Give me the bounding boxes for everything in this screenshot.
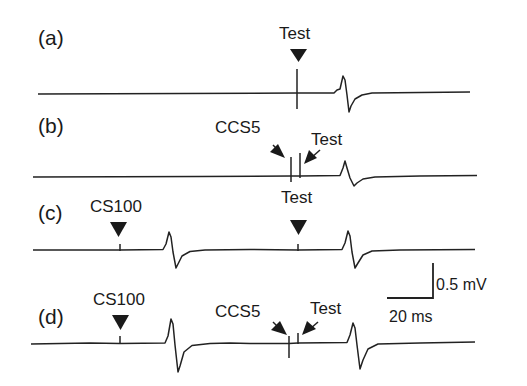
ccs5-label: CCS5 <box>215 302 260 321</box>
trace-c <box>33 231 475 268</box>
down-arrow-icon <box>112 315 129 330</box>
test-label: Test <box>311 130 342 149</box>
down-arrow-icon <box>110 222 127 237</box>
diagonal-arrow-left-icon <box>302 321 318 335</box>
panel-b: (b) CCS5 Test <box>33 114 477 186</box>
diagonal-arrow-left-icon <box>304 150 320 164</box>
scale-bar-lines <box>387 263 433 298</box>
panel-c: (c) CS100 Test <box>33 188 475 268</box>
cs100-label: CS100 <box>90 197 142 216</box>
scale-bar: 0.5 mV 20 ms <box>387 263 487 325</box>
panel-a: (a) Test <box>38 24 470 112</box>
panel-label-b: (b) <box>38 114 64 137</box>
figure: (a) Test (b) CCS5 Test (c) CS100 Test <box>0 0 527 386</box>
diagonal-arrow-right-icon <box>271 321 287 335</box>
down-arrow-icon <box>290 220 307 235</box>
trace-b <box>33 161 477 186</box>
ccs5-label: CCS5 <box>215 118 260 137</box>
test-label: Test <box>281 188 312 207</box>
panel-label-d: (d) <box>38 305 64 328</box>
panel-label-a: (a) <box>38 26 64 49</box>
trace-a <box>38 76 470 112</box>
test-label: Test <box>279 24 310 43</box>
panel-label-c: (c) <box>38 201 63 224</box>
panel-d: (d) CS100 CCS5 Test <box>31 290 475 372</box>
cs100-label: CS100 <box>93 290 145 309</box>
scale-bar-horizontal-label: 20 ms <box>389 308 433 325</box>
trace-d <box>31 319 475 372</box>
scale-bar-vertical-label: 0.5 mV <box>436 276 487 293</box>
diagonal-arrow-right-icon <box>270 144 285 158</box>
test-label: Test <box>310 299 341 318</box>
down-arrow-icon <box>290 49 307 62</box>
